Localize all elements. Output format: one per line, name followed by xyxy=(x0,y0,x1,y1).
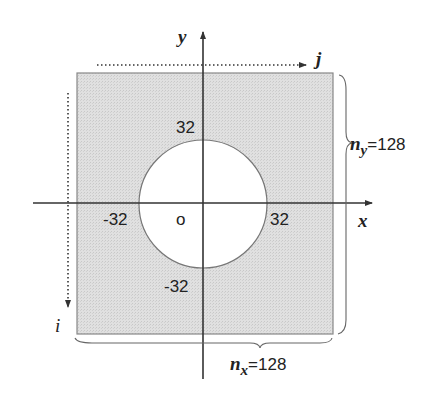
nx-label: nx=128 xyxy=(230,353,286,378)
tick-bottom: -32 xyxy=(164,277,189,296)
grid-diagram: y x j i 32 -32 -32 32 o ny=128 nx=128 xyxy=(0,0,441,402)
i-index-label: i xyxy=(55,315,60,336)
x-axis-label: x xyxy=(357,210,368,231)
nx-value: =128 xyxy=(248,355,286,374)
y-axis-label: y xyxy=(176,26,187,47)
ny-var: n xyxy=(350,133,361,154)
tick-right: 32 xyxy=(270,210,289,229)
ny-value: =128 xyxy=(367,135,405,154)
ny-sub: y xyxy=(359,142,368,158)
origin-label: o xyxy=(176,210,185,229)
ny-brace xyxy=(338,75,352,334)
tick-top: 32 xyxy=(176,118,195,137)
nx-var: n xyxy=(230,353,241,374)
tick-left: -32 xyxy=(103,210,128,229)
j-index-label: j xyxy=(313,48,322,69)
ny-label: ny=128 xyxy=(350,133,406,158)
